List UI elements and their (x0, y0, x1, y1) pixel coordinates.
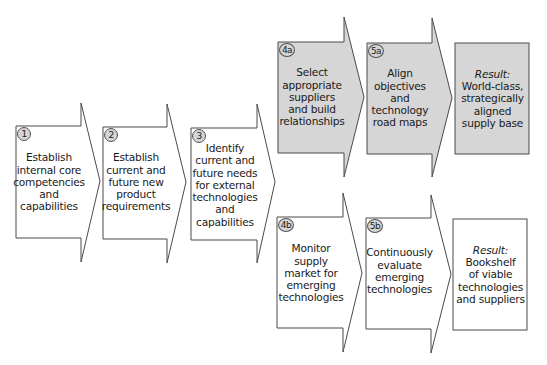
result-b-label: Result: Bookshelf of viable technologies… (453, 219, 528, 330)
step-badge-4b: 4b (278, 218, 294, 232)
label-line: and (13, 188, 85, 200)
label-line: current and (192, 154, 257, 166)
label-line: Identify (192, 142, 257, 154)
label-line: and (192, 203, 257, 215)
step-4a-label: Select appropriate suppliers and build r… (278, 58, 346, 136)
label-line: and suppliers (456, 293, 525, 305)
label-line: supply (278, 255, 343, 267)
label-line: Bookshelf (456, 256, 525, 268)
label-line: strategically (461, 92, 524, 104)
label-line: supply base (461, 117, 524, 129)
label-line: requirements (102, 200, 171, 212)
label-line: and (372, 92, 429, 104)
label-line: Monitor (278, 242, 343, 254)
label-line: competencies (13, 176, 85, 188)
label-line: of viable (456, 268, 525, 280)
label-line: relationships (279, 115, 344, 127)
label-line: product (102, 188, 171, 200)
step-4b-label: Monitor supply market for emerging techn… (277, 234, 345, 312)
result-heading: Result: (461, 68, 524, 80)
label-line: market for (278, 267, 343, 279)
label-line: Establish (102, 151, 171, 163)
label-line: technologies (278, 291, 343, 303)
step-3-label: Identify current and future needs for ex… (191, 136, 259, 234)
label-line: suppliers (279, 91, 344, 103)
label-line: objectives (372, 80, 429, 92)
label-line: capabilities (13, 200, 85, 212)
step-5a-label: Align objectives and technology road map… (367, 58, 433, 138)
label-line: current and (102, 164, 171, 176)
label-line: technologies (366, 283, 433, 295)
step-1-label: Establish internal core competencies and… (16, 140, 82, 224)
step-2-label: Establish current and future new product… (103, 140, 169, 224)
label-line: evaluate (366, 259, 433, 271)
label-line: technologies (456, 281, 525, 293)
label-line: future new (102, 176, 171, 188)
step-badge-5a: 5a (368, 44, 384, 58)
step-badge-4a: 4a (279, 43, 295, 57)
label-line: and build (279, 103, 344, 115)
label-line: emerging (278, 279, 343, 291)
label-line: Align (372, 67, 429, 79)
label-line: World-class, (461, 80, 524, 92)
label-line: road maps (372, 116, 429, 128)
label-line: Select (279, 66, 344, 78)
step-badge-1: 1 (17, 127, 31, 141)
step-5b-label: Continuously evaluate emerging technolog… (366, 232, 433, 310)
label-line: emerging (366, 271, 433, 283)
label-line: for external (192, 179, 257, 191)
label-line: Continuously (366, 246, 433, 258)
label-line: technologies (192, 191, 257, 203)
label-line: technology (372, 104, 429, 116)
label-line: appropriate (279, 79, 344, 91)
result-a-label: Result: World-class, strategically align… (455, 43, 530, 154)
label-line: Establish (13, 151, 85, 163)
result-heading: Result: (456, 244, 525, 256)
label-line: aligned (461, 105, 524, 117)
step-badge-5b: 5b (367, 219, 383, 233)
label-line: internal core (13, 164, 85, 176)
label-line: future needs (192, 167, 257, 179)
label-line: capabilities (192, 216, 257, 228)
